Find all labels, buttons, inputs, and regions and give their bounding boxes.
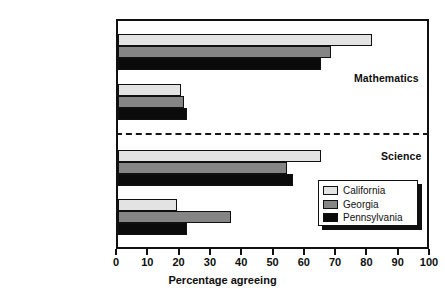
legend-label-pennsylvania: Pennsylvania: [343, 212, 402, 223]
bar-science-include-georgia: [118, 162, 287, 174]
bar-math-include-california: [118, 34, 372, 46]
x-tick-label-70: 70: [329, 256, 341, 268]
x-tick-label-20: 20: [172, 256, 184, 268]
panel-title-mathematics: Mathematics: [354, 72, 419, 84]
x-tick-label-60: 60: [298, 256, 310, 268]
x-tick-label-50: 50: [266, 256, 278, 268]
bar-math-donotcover-pennsylvania: [118, 108, 187, 120]
x-tick-100: [428, 249, 430, 255]
x-tick-50: [272, 249, 274, 255]
bar-science-donotcover-california: [118, 199, 177, 211]
x-axis-title: Percentage agreeing: [0, 274, 445, 286]
legend-label-california: California: [343, 185, 385, 196]
x-tick-80: [365, 249, 367, 255]
x-tick-label-30: 30: [204, 256, 216, 268]
x-tick-label-40: 40: [235, 256, 247, 268]
bar-science-donotcover-georgia: [118, 211, 231, 223]
bar-math-include-georgia: [118, 46, 331, 58]
bar-science-include-pennsylvania: [118, 174, 293, 186]
legend-swatch-pennsylvania-icon: [323, 213, 338, 222]
bar-math-donotcover-california: [118, 84, 181, 96]
legend-item-georgia: Georgia: [323, 198, 417, 212]
bar-chart: Include more content than can be covered…: [0, 0, 445, 294]
x-tick-label-100: 100: [420, 256, 438, 268]
legend-swatch-california-icon: [323, 186, 338, 195]
x-tick-10: [146, 249, 148, 255]
x-tick-0: [115, 249, 117, 255]
x-tick-label-0: 0: [113, 256, 119, 268]
panel-title-science: Science: [381, 150, 421, 162]
legend-label-georgia: Georgia: [343, 199, 379, 210]
x-tick-20: [178, 249, 180, 255]
bar-science-donotcover-pennsylvania: [118, 223, 187, 235]
bar-math-donotcover-georgia: [118, 96, 184, 108]
x-tick-90: [397, 249, 399, 255]
x-tick-60: [303, 249, 305, 255]
bar-science-include-california: [118, 150, 321, 162]
legend-swatch-georgia-icon: [323, 200, 338, 209]
legend-item-pennsylvania: Pennsylvania: [323, 211, 417, 225]
legend: California Georgia Pennsylvania: [318, 180, 418, 226]
x-tick-label-80: 80: [360, 256, 372, 268]
x-tick-70: [334, 249, 336, 255]
x-tick-label-10: 10: [141, 256, 153, 268]
x-tick-label-90: 90: [392, 256, 404, 268]
panel-divider: [116, 133, 429, 135]
bar-math-include-pennsylvania: [118, 58, 321, 70]
legend-item-california: California: [323, 184, 417, 198]
x-tick-40: [240, 249, 242, 255]
x-tick-30: [209, 249, 211, 255]
